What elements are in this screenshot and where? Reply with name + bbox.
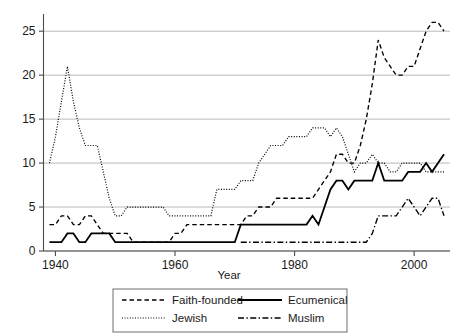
y-tick-label-20: 20 [22,68,36,82]
y-tick-label-0: 0 [29,244,36,258]
legend-label-jewish: Jewish [172,312,207,324]
legend-label-ecumenical: Ecumenical [288,294,347,306]
x-tick-label-2000: 2000 [401,258,428,272]
y-tick-label-15: 15 [22,112,36,126]
x-axis-title: Year [217,269,240,281]
chart-background [0,0,459,336]
x-tick-label-1940: 1940 [42,258,69,272]
x-tick-label-1980: 1980 [281,258,308,272]
legend-label-faith-founded: Faith-founded [172,294,243,306]
y-tick-label-10: 10 [22,156,36,170]
x-tick-label-1960: 1960 [162,258,189,272]
chart-legend: Faith-foundedEcumenicalJewishMuslim [113,289,347,332]
chart-figure: 0510152025 1940196019802000 Year Faith-f… [0,0,459,336]
legend-label-muslim: Muslim [288,312,324,324]
y-tick-label-5: 5 [29,200,36,214]
y-tick-label-25: 25 [22,24,36,38]
chart-canvas: 0510152025 1940196019802000 Year Faith-f… [0,0,459,336]
